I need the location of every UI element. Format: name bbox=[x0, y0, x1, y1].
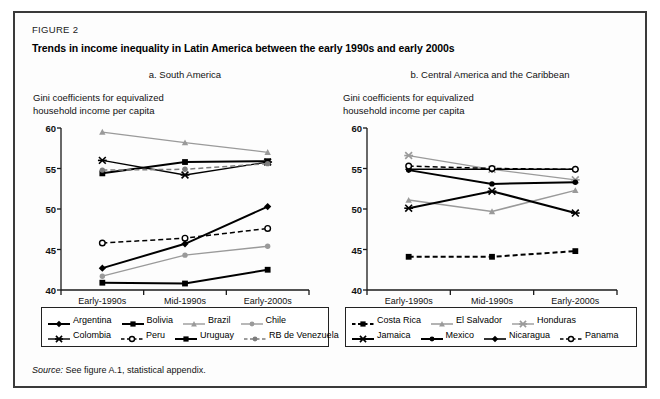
legend-item-panama[interactable]: Panama bbox=[560, 330, 619, 340]
legend-label: Uruguay bbox=[200, 330, 234, 340]
legend-marker-icon bbox=[512, 315, 534, 325]
data-point-bolivia bbox=[182, 281, 188, 287]
source-prefix: Source: bbox=[32, 365, 63, 375]
data-point-argentina bbox=[264, 203, 271, 210]
data-point-mexico bbox=[489, 181, 494, 186]
legend-label: Colombia bbox=[73, 330, 111, 340]
data-point-argentina bbox=[99, 265, 106, 272]
data-point-peru bbox=[100, 240, 106, 246]
legend-item-bolivia[interactable]: Bolivia bbox=[122, 315, 174, 325]
data-point-bolivia bbox=[99, 280, 105, 286]
legend-label: Chile bbox=[266, 315, 287, 325]
legend-item-el-salvador[interactable]: El Salvador bbox=[431, 315, 502, 325]
y-axis-tick-label: 40 bbox=[351, 285, 362, 296]
legend-label: Jamaica bbox=[377, 330, 411, 340]
data-point-panama bbox=[406, 163, 412, 169]
legend-item-mexico[interactable]: Mexico bbox=[421, 330, 475, 340]
panel-central-america: b. Central America and the Caribbean Gin… bbox=[333, 69, 643, 369]
legend-item-costa-rica[interactable]: Costa Rica bbox=[352, 315, 421, 325]
y-axis-tick-label: 45 bbox=[45, 244, 56, 255]
legend-label: Bolivia bbox=[147, 315, 174, 325]
panel-a-title: a. South America bbox=[23, 69, 335, 80]
y-axis-tick-label: 55 bbox=[351, 163, 362, 174]
y-axis-tick-label: 60 bbox=[45, 123, 56, 134]
axis-caption-line1: Gini coefficients for equivalized bbox=[33, 92, 164, 105]
x-axis-tick-label: Early-1990s bbox=[78, 296, 126, 306]
legend-item-honduras[interactable]: Honduras bbox=[512, 315, 576, 325]
legend-item-brazil[interactable]: Brazil bbox=[183, 315, 231, 325]
data-point-costa-rica bbox=[406, 254, 412, 260]
legend-label: Argentina bbox=[73, 315, 112, 325]
legend-label: Costa Rica bbox=[377, 315, 421, 325]
legend-marker-icon bbox=[484, 330, 506, 340]
y-axis-tick-label: 45 bbox=[351, 244, 362, 255]
data-point-chile bbox=[100, 274, 105, 279]
panel-a-axis-caption: Gini coefficients for equivalized househ… bbox=[33, 92, 164, 117]
panel-b-title: b. Central America and the Caribbean bbox=[333, 69, 643, 80]
legend-row: ArgentinaBoliviaBrazilChile bbox=[48, 312, 322, 327]
legend-row: JamaicaMexicoNicaraguaPanama bbox=[352, 327, 630, 342]
legend-label: Nicaragua bbox=[509, 330, 550, 340]
y-axis-tick-label: 50 bbox=[351, 204, 362, 215]
data-point-el-salvador bbox=[572, 187, 578, 193]
legend-marker-icon bbox=[48, 315, 70, 325]
legend-label: Honduras bbox=[537, 315, 576, 325]
x-axis-tick-label: Early-2000s bbox=[551, 296, 599, 306]
data-point-jamaica bbox=[404, 205, 413, 212]
data-point-rb-de-venezuela bbox=[100, 167, 105, 172]
legend-label: RB de Venezuela bbox=[269, 330, 339, 340]
legend-marker-icon bbox=[431, 315, 453, 325]
data-point-rb-de-venezuela bbox=[182, 167, 187, 172]
data-point-uruguay bbox=[182, 159, 188, 165]
panel-a-legend: ArgentinaBoliviaBrazilChile ColombiaPeru… bbox=[41, 307, 329, 347]
data-point-panama bbox=[573, 167, 579, 173]
legend-row: Costa RicaEl SalvadorHonduras bbox=[352, 312, 630, 327]
legend-item-jamaica[interactable]: Jamaica bbox=[352, 330, 411, 340]
legend-marker-icon bbox=[241, 315, 263, 325]
data-point-panama bbox=[489, 166, 495, 172]
data-point-jamaica bbox=[488, 188, 497, 195]
legend-item-chile[interactable]: Chile bbox=[241, 315, 287, 325]
legend-item-colombia[interactable]: Colombia bbox=[48, 330, 111, 340]
panel-a-plot: 4045505560Early-1990sMid-1990sEarly-2000… bbox=[61, 128, 309, 290]
data-point-peru bbox=[182, 235, 188, 241]
x-axis-tick-label: Early-1990s bbox=[385, 296, 433, 306]
legend-label: Brazil bbox=[208, 315, 231, 325]
data-point-rb-de-venezuela bbox=[265, 161, 270, 166]
axis-caption-line2: household income per capita bbox=[33, 105, 164, 118]
axis-caption-line2: household income per capita bbox=[343, 105, 474, 118]
legend-marker-icon bbox=[352, 330, 374, 340]
data-point-chile bbox=[182, 252, 187, 257]
x-axis-tick-label: Mid-1990s bbox=[471, 296, 513, 306]
legend-label: Panama bbox=[585, 330, 619, 340]
x-axis-tick-label: Early-2000s bbox=[244, 296, 292, 306]
x-axis-tick-label: Mid-1990s bbox=[164, 296, 206, 306]
data-point-costa-rica bbox=[489, 254, 495, 260]
panel-b-axis-caption: Gini coefficients for equivalized househ… bbox=[343, 92, 474, 117]
source-text: See figure A.1, statistical appendix. bbox=[66, 365, 206, 375]
data-point-chile bbox=[265, 244, 270, 249]
legend-item-uruguay[interactable]: Uruguay bbox=[175, 330, 234, 340]
legend-item-argentina[interactable]: Argentina bbox=[48, 315, 112, 325]
data-point-colombia bbox=[98, 157, 107, 164]
legend-marker-icon bbox=[560, 330, 582, 340]
figure-frame: FIGURE 2 Trends in income inequality in … bbox=[13, 11, 647, 388]
data-point-bolivia bbox=[265, 267, 271, 273]
panel-b-legend: Costa RicaEl SalvadorHonduras JamaicaMex… bbox=[345, 307, 637, 347]
data-point-honduras bbox=[404, 152, 413, 159]
data-point-costa-rica bbox=[572, 248, 578, 254]
legend-item-rb-de-venezuela[interactable]: RB de Venezuela bbox=[244, 330, 339, 340]
legend-label: Mexico bbox=[446, 330, 475, 340]
legend-marker-icon bbox=[183, 315, 205, 325]
legend-item-nicaragua[interactable]: Nicaragua bbox=[484, 330, 550, 340]
legend-item-peru[interactable]: Peru bbox=[121, 330, 165, 340]
data-point-jamaica bbox=[571, 210, 580, 217]
source-note: Source: See figure A.1, statistical appe… bbox=[32, 365, 206, 375]
legend-marker-icon bbox=[175, 330, 197, 340]
figure-title: Trends in income inequality in Latin Ame… bbox=[32, 42, 455, 54]
data-point-mexico bbox=[573, 180, 578, 185]
axis-caption-line1: Gini coefficients for equivalized bbox=[343, 92, 474, 105]
y-axis-tick-label: 50 bbox=[45, 204, 56, 215]
figure-label: FIGURE 2 bbox=[32, 24, 78, 35]
legend-marker-icon bbox=[244, 330, 266, 340]
